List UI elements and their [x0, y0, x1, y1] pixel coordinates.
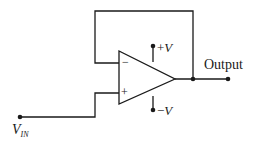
neg-supply-terminal	[151, 108, 156, 113]
pos-supply-label: +V	[157, 41, 172, 54]
output-junction-dot	[191, 77, 196, 82]
input-wire	[20, 93, 119, 117]
neg-supply-label: −V	[157, 104, 172, 117]
output-terminal	[226, 77, 231, 82]
circuit-diagram	[0, 0, 255, 144]
output-label: Output	[204, 58, 243, 72]
input-terminal	[18, 115, 23, 120]
pos-supply-terminal	[151, 44, 156, 49]
inverting-input-sign: −	[122, 56, 129, 68]
noninverting-input-sign: +	[121, 86, 128, 98]
input-label: VIN	[12, 123, 29, 139]
